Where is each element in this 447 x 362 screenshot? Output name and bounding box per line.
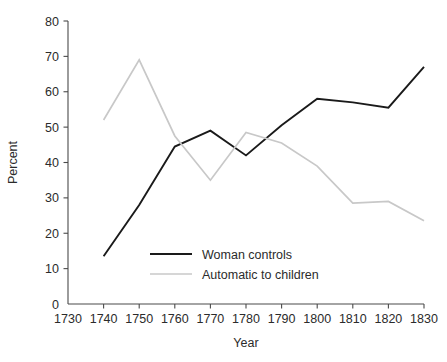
y-axis-tick-label: 80 xyxy=(45,15,59,29)
y-axis-tick-label: 0 xyxy=(52,298,59,312)
y-axis-tick-label: 60 xyxy=(45,85,59,99)
x-axis-tick-label-group: 1730174017501760177017801790180018101820… xyxy=(54,312,438,326)
y-axis-tick-label: 40 xyxy=(45,156,59,170)
chart-legend: Woman controlsAutomatic to children xyxy=(150,248,319,282)
x-axis-tick-label: 1760 xyxy=(161,312,189,326)
line-chart: 01020304050607080 1730174017501760177017… xyxy=(0,0,447,362)
y-axis-tick-mark-group xyxy=(64,21,69,269)
legend-entry-label: Automatic to children xyxy=(202,268,319,282)
y-axis-tick-label: 10 xyxy=(45,262,59,276)
x-axis-tick-mark-group xyxy=(104,304,424,309)
x-axis-title: Year xyxy=(233,336,258,350)
x-axis-tick-label: 1820 xyxy=(374,312,402,326)
x-axis-tick-label: 1750 xyxy=(125,312,153,326)
x-axis-tick-label: 1770 xyxy=(196,312,224,326)
x-axis-tick-label: 1780 xyxy=(232,312,260,326)
y-axis-title: Percent xyxy=(6,140,20,184)
data-series-group xyxy=(104,60,424,256)
x-axis-tick-label: 1730 xyxy=(54,312,82,326)
x-axis-tick-label: 1800 xyxy=(303,312,331,326)
chart-canvas: 01020304050607080 1730174017501760177017… xyxy=(0,0,447,362)
legend-entry-label: Woman controls xyxy=(202,248,292,262)
x-axis-tick-label: 1740 xyxy=(90,312,118,326)
y-axis-tick-label: 30 xyxy=(45,191,59,205)
x-axis-tick-label: 1810 xyxy=(339,312,367,326)
x-axis-tick-label: 1790 xyxy=(268,312,296,326)
y-axis-tick-label-group: 01020304050607080 xyxy=(45,15,59,312)
y-axis-tick-label: 70 xyxy=(45,50,59,64)
series-line-1 xyxy=(104,67,424,256)
y-axis-tick-label: 50 xyxy=(45,121,59,135)
x-axis-tick-label: 1830 xyxy=(410,312,438,326)
y-axis-tick-label: 20 xyxy=(45,227,59,241)
